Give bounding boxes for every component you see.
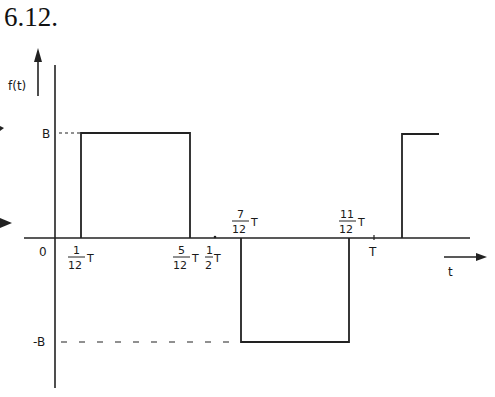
waveform-pulse-next (402, 134, 439, 238)
origin-label: 0 (39, 245, 47, 259)
svg-text:7: 7 (237, 208, 244, 221)
svg-text:11: 11 (340, 208, 354, 221)
svg-text:1: 1 (73, 244, 80, 257)
margin-mark-icon (0, 126, 4, 131)
svg-text:T: T (213, 252, 221, 265)
y-arrow-icon (34, 48, 42, 96)
svg-text:T: T (357, 216, 365, 229)
svg-text:T: T (86, 252, 94, 265)
svg-text:2: 2 (205, 259, 212, 272)
y-tick-negB: -B (33, 335, 45, 349)
y-axis-label: f(t) (8, 79, 26, 93)
tick-half-T (214, 236, 217, 239)
svg-text:12: 12 (173, 259, 187, 272)
svg-text:5: 5 (178, 244, 185, 257)
svg-text:1: 1 (206, 244, 213, 257)
y-tick-B: B (42, 127, 50, 141)
svg-text:12: 12 (232, 223, 246, 236)
x-axis-label: t (448, 265, 453, 279)
tick-label-7-12-T: 7 12 T (232, 208, 258, 236)
tick-label-1-12-T: 1 12 T (68, 244, 94, 272)
svg-text:T: T (250, 216, 258, 229)
margin-arrow-icon (0, 218, 12, 228)
svg-text:12: 12 (339, 223, 353, 236)
svg-text:12: 12 (68, 259, 82, 272)
svg-text:T: T (191, 252, 199, 265)
tick-label-11-12-T: 11 12 T (339, 208, 365, 236)
tick-label-T: T (368, 245, 377, 259)
tick-label-1-2-T: 1 2 T (205, 244, 221, 272)
waveform-pulse-positive (81, 133, 190, 238)
waveform-diagram: f(t) B -B 0 1 12 T 5 12 T 1 2 T 7 12 T (0, 0, 495, 397)
waveform-pulse-negative (241, 238, 349, 342)
tick-label-5-12-T: 5 12 T (173, 244, 199, 272)
x-arrow-icon (444, 253, 487, 261)
